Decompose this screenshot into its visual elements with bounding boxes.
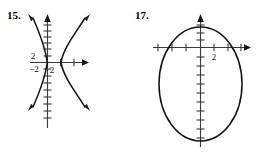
y-tick-label-2: 2 — [31, 51, 36, 61]
x-axis-arrow-icon — [244, 44, 251, 51]
y-axis-arrow-icon — [197, 14, 204, 22]
ellipse-svg: 2 — [131, 0, 261, 156]
y-axis-arrow-icon — [44, 14, 51, 22]
x-tick-label-2: 2 — [212, 52, 217, 62]
x-tick-label-2: 2 — [50, 65, 55, 75]
figure-15-container: 15. — [0, 0, 131, 156]
figure-17-container: 17. — [131, 0, 261, 156]
y-tick-label-negative-2: −2 — [29, 64, 39, 74]
ellipse-plot: 2 — [131, 0, 261, 156]
hyperbola-plot: 2 −2 2 — [0, 0, 131, 156]
x-axis — [30, 59, 89, 66]
y-axis — [197, 14, 204, 147]
x-axis-arrow-icon — [82, 59, 89, 66]
hyperbola-svg: 2 −2 2 — [0, 0, 131, 156]
